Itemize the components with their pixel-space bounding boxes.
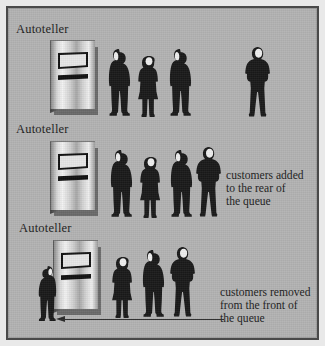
queue-person	[140, 250, 168, 318]
autoteller-label-row3: Autoteller	[19, 221, 72, 236]
figure-illustration: Autoteller	[0, 0, 325, 346]
autoteller-screen-glass	[63, 254, 89, 267]
figure-plate: Autoteller	[6, 6, 319, 340]
caption-customers-removed: customers removed from the front of the …	[220, 286, 310, 326]
removal-flow-arrow	[56, 316, 224, 324]
queue-person	[168, 247, 198, 318]
autoteller-screen	[61, 252, 91, 269]
row-customer-removed: Autoteller	[8, 8, 317, 338]
caption-line: the queue	[220, 312, 310, 325]
caption-line: from the front of	[220, 299, 310, 312]
autoteller-card-slot	[61, 274, 91, 280]
arrow-shaft	[64, 319, 224, 320]
queue-person	[111, 257, 135, 318]
caption-line: customers removed	[220, 286, 310, 299]
served-person	[33, 266, 61, 322]
